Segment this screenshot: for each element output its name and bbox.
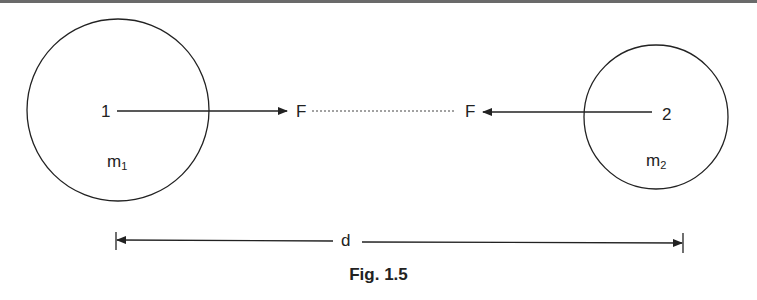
gravitation-diagram: [0, 0, 757, 300]
distance-arrow-right: [362, 242, 682, 243]
distance-label: d: [341, 232, 350, 249]
mass-label-1: m1: [107, 153, 127, 172]
distance-arrow-left: [117, 240, 333, 241]
mass-1-circle: [27, 19, 209, 201]
point-label-2: 2: [662, 106, 671, 123]
figure-caption: Fig. 1.5: [0, 265, 757, 285]
mass-label-2: m2: [646, 152, 666, 171]
force-label-2: F: [465, 103, 475, 120]
force-label-1: F: [296, 103, 306, 120]
point-label-1: 1: [101, 103, 110, 120]
